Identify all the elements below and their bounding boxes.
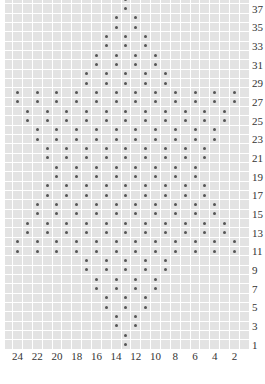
- chart-cell: [230, 126, 239, 134]
- chart-cell: [151, 191, 160, 199]
- chart-cell: [210, 32, 219, 40]
- chart-cell: [82, 172, 91, 180]
- chart-cell: [43, 266, 52, 274]
- chart-cell: [230, 210, 239, 218]
- purl-dot-icon: [164, 231, 167, 234]
- chart-cell: [62, 247, 71, 255]
- chart-cell: [181, 238, 190, 246]
- chart-cell: [220, 172, 229, 180]
- chart-cell: [141, 23, 150, 31]
- chart-cell: [240, 163, 249, 171]
- chart-cell: [131, 0, 140, 3]
- chart-cell: [161, 14, 170, 22]
- chart-cell: [23, 23, 32, 31]
- chart-cell: [181, 312, 190, 320]
- chart-cell: [220, 331, 229, 339]
- chart-cell: [53, 266, 62, 274]
- chart-cell: [210, 163, 219, 171]
- chart-cell: [33, 312, 42, 320]
- row-label: 13: [252, 228, 263, 239]
- chart-cell: [191, 116, 200, 124]
- chart-cell: [131, 70, 140, 78]
- chart-cell: [13, 172, 22, 180]
- chart-cell: [181, 200, 190, 208]
- chart-cell: [230, 135, 239, 143]
- chart-cell: [13, 256, 22, 264]
- chart-cell: [191, 312, 200, 320]
- chart-cell: [5, 294, 12, 302]
- chart-cell: [5, 322, 12, 330]
- column-label: 16: [91, 351, 102, 362]
- chart-cell: [82, 275, 91, 283]
- chart-cell: [13, 79, 22, 87]
- chart-cell: [161, 135, 170, 143]
- chart-cell: [5, 126, 12, 134]
- chart-cell: [230, 32, 239, 40]
- purl-dot-icon: [174, 203, 177, 206]
- purl-dot-icon: [194, 175, 197, 178]
- chart-cell: [92, 154, 101, 162]
- chart-cell: [122, 200, 131, 208]
- chart-cell: [53, 340, 62, 348]
- chart-cell: [13, 303, 22, 311]
- chart-cell: [13, 70, 22, 78]
- chart-cell: [43, 0, 52, 3]
- chart-cell: [72, 182, 81, 190]
- purl-dot-icon: [36, 138, 39, 141]
- chart-cell: [200, 172, 209, 180]
- chart-cell: [131, 256, 140, 264]
- purl-dot-icon: [115, 175, 118, 178]
- chart-cell: [161, 303, 170, 311]
- chart-cell: [240, 172, 249, 180]
- purl-dot-icon: [154, 250, 157, 253]
- chart-cell: [191, 219, 200, 227]
- row-label: 23: [252, 134, 263, 145]
- chart-cell: [13, 14, 22, 22]
- chart-cell: [181, 14, 190, 22]
- chart-cell: [181, 51, 190, 59]
- chart-cell: [230, 191, 239, 199]
- purl-dot-icon: [36, 91, 39, 94]
- chart-cell: [191, 23, 200, 31]
- chart-cell: [112, 70, 121, 78]
- chart-cell: [181, 32, 190, 40]
- chart-cell: [62, 0, 71, 3]
- chart-cell: [33, 70, 42, 78]
- row-label: 19: [252, 172, 263, 183]
- chart-cell: [23, 0, 32, 3]
- chart-cell: [122, 14, 131, 22]
- purl-dot-icon: [154, 166, 157, 169]
- chart-cell: [191, 294, 200, 302]
- purl-dot-icon: [105, 82, 108, 85]
- chart-cell: [102, 275, 111, 283]
- chart-cell: [161, 275, 170, 283]
- chart-cell: [92, 79, 101, 87]
- chart-cell: [200, 331, 209, 339]
- chart-cell: [92, 144, 101, 152]
- chart-cell: [53, 312, 62, 320]
- row-label: 37: [252, 4, 263, 15]
- chart-cell: [43, 275, 52, 283]
- chart-cell: [240, 238, 249, 246]
- chart-cell: [200, 238, 209, 246]
- chart-cell: [200, 14, 209, 22]
- chart-cell: [62, 238, 71, 246]
- chart-cell: [13, 163, 22, 171]
- chart-cell: [220, 256, 229, 264]
- chart-cell: [181, 163, 190, 171]
- chart-cell: [171, 51, 180, 59]
- chart-cell: [141, 210, 150, 218]
- purl-dot-icon: [164, 82, 167, 85]
- chart-cell: [72, 266, 81, 274]
- chart-cell: [72, 219, 81, 227]
- chart-cell: [171, 4, 180, 12]
- purl-dot-icon: [36, 203, 39, 206]
- chart-cell: [53, 60, 62, 68]
- chart-cell: [240, 154, 249, 162]
- chart-cell: [5, 312, 12, 320]
- chart-cell: [5, 210, 12, 218]
- chart-cell: [112, 294, 121, 302]
- purl-dot-icon: [233, 250, 236, 253]
- chart-cell: [230, 23, 239, 31]
- chart-cell: [171, 42, 180, 50]
